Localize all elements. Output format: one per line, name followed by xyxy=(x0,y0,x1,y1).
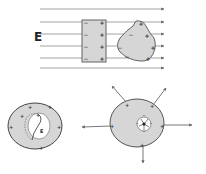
svg-text:+: + xyxy=(150,103,154,109)
svg-text:+: + xyxy=(57,124,61,130)
svg-text:+: + xyxy=(138,20,143,27)
diagram-svg: −−−− ++ ++ + + + + − − − xyxy=(0,0,206,174)
svg-text:−: − xyxy=(142,113,145,118)
svg-text:+: + xyxy=(110,123,114,129)
svg-text:+: + xyxy=(145,55,150,62)
svg-text:+: + xyxy=(36,112,40,118)
svg-text:+: + xyxy=(150,44,155,51)
field-label-e: E xyxy=(34,30,42,44)
svg-text:−: − xyxy=(117,44,122,51)
svg-text:+: + xyxy=(99,19,104,26)
svg-text:+: + xyxy=(28,104,32,110)
svg-text:−: − xyxy=(83,19,88,26)
svg-text:+: + xyxy=(160,123,164,129)
svg-text:+: + xyxy=(48,104,52,110)
svg-text:−: − xyxy=(142,129,145,134)
svg-text:−: − xyxy=(135,121,138,126)
hollow-conductor: + + + + + + + E xyxy=(8,103,62,151)
svg-text:−: − xyxy=(83,31,88,38)
cavity-field-label: E xyxy=(40,128,44,134)
svg-text:+: + xyxy=(99,55,104,62)
svg-text:−: − xyxy=(149,121,152,126)
svg-text:+: + xyxy=(20,113,24,119)
svg-text:+: + xyxy=(140,142,144,148)
diagram-canvas: −−−− ++ ++ + + + + − − − xyxy=(0,0,206,174)
svg-text:+: + xyxy=(144,32,149,39)
slab-conductor: −−−− ++ ++ xyxy=(82,19,106,62)
svg-text:−: − xyxy=(124,53,129,60)
svg-text:−: − xyxy=(83,55,88,62)
svg-text:+: + xyxy=(125,102,129,108)
svg-text:−: − xyxy=(83,43,88,50)
svg-text:+: + xyxy=(9,124,13,130)
svg-text:+: + xyxy=(99,43,104,50)
conductor-with-cavity-charge: + + + + + − − − − xyxy=(82,86,192,163)
irregular-conductor: + + + + − − − xyxy=(117,20,155,62)
svg-text:+: + xyxy=(39,145,43,151)
svg-text:+: + xyxy=(99,31,104,38)
svg-text:−: − xyxy=(128,31,133,38)
